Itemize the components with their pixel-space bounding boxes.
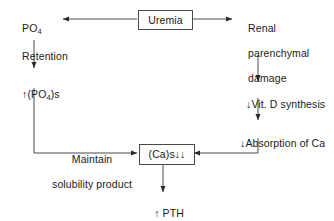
node-renal-damage-line2: parenchymal — [248, 47, 309, 59]
node-vit-d-label: ↓Vit. D synthesis — [246, 98, 325, 110]
flowchart-diagram: PO4 Retention Uremia Renal parenchymal d… — [0, 0, 334, 221]
maintain-solubility-line1: Maintain — [72, 153, 113, 165]
node-ca-serum-down: (Ca)s↓↓ — [139, 144, 195, 165]
node-po4-serum-suffix: )s — [51, 88, 60, 100]
node-pth-up: ↑ PTH — [133, 194, 193, 221]
node-po4-retention: PO4 Retention — [10, 9, 80, 75]
node-renal-damage: Renal parenchymal damage — [236, 9, 332, 97]
node-pth-label: ↑ PTH — [154, 207, 184, 219]
node-renal-damage-line3: damage — [248, 72, 287, 84]
node-po4-serum-up: ↑(PO4)s — [10, 75, 80, 116]
maintain-solubility-line2: solubility product — [52, 178, 132, 190]
node-absorption-ca-down: ↓Absorption of Ca — [228, 124, 334, 162]
node-absorption-ca-label: ↓Absorption of Ca — [240, 137, 325, 149]
node-uremia-label: Uremia — [148, 14, 182, 27]
node-po4-retention-line2: Retention — [22, 50, 68, 62]
subscript-4: 4 — [37, 26, 41, 35]
node-po4-serum-prefix: ↑(PO — [22, 88, 46, 100]
node-ca-serum-label: (Ca)s↓↓ — [149, 148, 186, 161]
node-po4-retention-line1: PO4 — [22, 22, 42, 34]
node-renal-damage-line1: Renal — [248, 22, 276, 34]
node-vit-d-synthesis-down: ↓Vit. D synthesis — [234, 85, 334, 123]
node-maintain-solubility: Maintain solubility product — [38, 140, 134, 203]
node-uremia: Uremia — [138, 10, 193, 30]
